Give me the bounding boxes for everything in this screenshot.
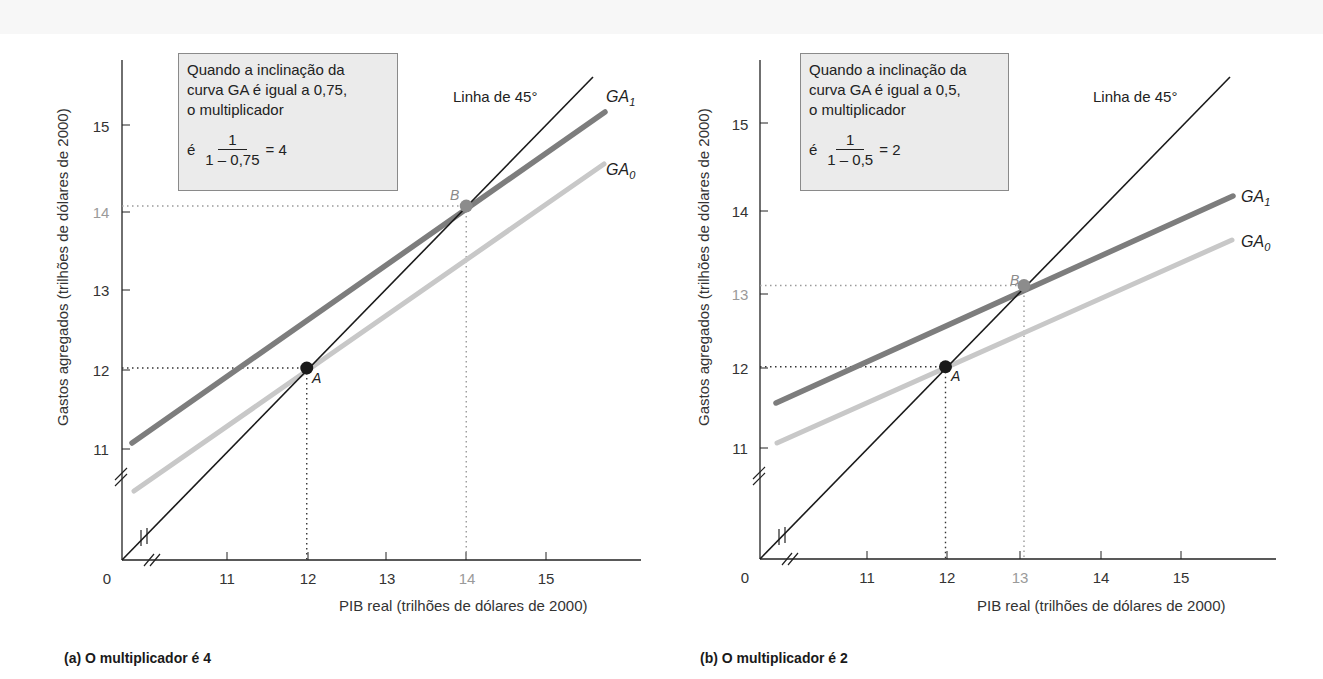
- fraction-denominator: 1 – 0,75: [205, 150, 259, 169]
- x-tick-15: 15: [538, 570, 555, 587]
- x-tick-11: 11: [219, 570, 235, 587]
- ga1-label-base: GA: [1241, 188, 1264, 205]
- ga0-curve: [134, 164, 604, 491]
- y-tick-15: 15: [732, 116, 749, 133]
- ga0-curve: [777, 240, 1232, 443]
- x-tick-12: 12: [300, 570, 317, 587]
- fraction-numerator: 1: [836, 130, 864, 150]
- y-axis-label-a: Gastos agregados (trilhões de dólares de…: [54, 108, 71, 426]
- y-tick-12: 12: [732, 360, 749, 377]
- formula-result: = 2: [879, 140, 900, 160]
- point-b-label-a: B: [450, 187, 459, 203]
- ga0-label-base: GA: [1241, 233, 1264, 250]
- equilibrium-point-b: [460, 200, 473, 213]
- multiplier-formula: é 1 1 – 0,75 = 4: [187, 130, 389, 169]
- ga0-label-a: GA0: [606, 161, 635, 181]
- y-tick-14: 14: [732, 203, 749, 220]
- y-axis-label-b: Gastos agregados (trilhões de dólares de…: [695, 108, 712, 426]
- ga0-label-b: GA0: [1241, 233, 1270, 253]
- panel-caption-a: (a) O multiplicador é 4: [64, 650, 211, 666]
- multiplier-annotation-box-b: Quando a inclinação da curva GA é igual …: [800, 53, 1009, 191]
- y-tick-13: 13: [93, 282, 110, 299]
- multiplier-annotation-box-a: Quando a inclinação da curva GA é igual …: [178, 53, 398, 191]
- y-tick-15: 15: [93, 118, 110, 135]
- ga1-label-base: GA: [606, 88, 629, 105]
- x-tick-13: 13: [1012, 569, 1029, 586]
- annotation-line-2: curva GA é igual a 0,5,: [809, 80, 1000, 100]
- y-tick-11: 11: [93, 441, 109, 458]
- fraction-denominator: 1 – 0,5: [827, 150, 873, 169]
- x-tick-12: 12: [939, 569, 956, 586]
- panel-caption-b: (b) O multiplicador é 2: [700, 650, 848, 666]
- ga1-label-subscript: 1: [1264, 196, 1270, 208]
- point-b-label-b: B: [1010, 272, 1019, 288]
- ga1-label-a: GA1: [606, 88, 635, 108]
- ga1-label-subscript: 1: [629, 96, 635, 108]
- x-tick-14: 14: [1093, 569, 1110, 586]
- formula-result: = 4: [266, 140, 287, 160]
- formula-prefix: é: [187, 140, 195, 160]
- point-a-label-b: A: [951, 368, 960, 384]
- ga0-label-subscript: 0: [1264, 241, 1270, 253]
- equilibrium-point-b: [1018, 279, 1031, 292]
- ga1-label-b: GA1: [1241, 188, 1270, 208]
- x-tick-0: 0: [741, 569, 749, 586]
- ga0-label-base: GA: [606, 161, 629, 178]
- fraction: 1 1 – 0,75: [205, 130, 259, 169]
- fraction: 1 1 – 0,5: [827, 130, 873, 169]
- x-tick-11: 11: [859, 569, 875, 586]
- formula-prefix: é: [809, 140, 817, 160]
- annotation-line-2: curva GA é igual a 0,75,: [187, 80, 389, 100]
- y-tick-13: 13: [732, 286, 749, 303]
- annotation-line-3: o multiplicador: [809, 100, 1000, 120]
- x-axis-label-b: PIB real (trilhões de dólares de 2000): [977, 597, 1225, 614]
- line-45-label-a: Linha de 45°: [453, 88, 537, 105]
- annotation-line-1: Quando a inclinação da: [187, 60, 389, 80]
- y-tick-14: 14: [93, 204, 110, 221]
- x-axis-label-a: PIB real (trilhões de dólares de 2000): [339, 597, 587, 614]
- chart-panel-b: Quando a inclinação da curva GA é igual …: [660, 0, 1323, 679]
- annotation-line-1: Quando a inclinação da: [809, 60, 1000, 80]
- annotation-line-3: o multiplicador: [187, 100, 389, 120]
- fraction-numerator: 1: [218, 130, 246, 150]
- x-tick-14: 14: [459, 570, 476, 587]
- y-tick-12: 12: [93, 362, 110, 379]
- y-tick-11: 11: [732, 440, 748, 457]
- x-tick-15: 15: [1173, 569, 1190, 586]
- x-tick-0: 0: [103, 570, 111, 587]
- chart-panel-a: Quando a inclinação da curva GA é igual …: [0, 0, 660, 679]
- x-tick-13: 13: [379, 570, 396, 587]
- y-axis-break-icon: [115, 468, 127, 486]
- ga0-label-subscript: 0: [629, 169, 635, 181]
- multiplier-formula: é 1 1 – 0,5 = 2: [809, 130, 1000, 169]
- ga1-curve: [776, 196, 1233, 403]
- point-a-label-a: A: [312, 370, 321, 386]
- y-axis-break-icon: [753, 467, 765, 485]
- line-45-label-b: Linha de 45°: [1093, 88, 1177, 105]
